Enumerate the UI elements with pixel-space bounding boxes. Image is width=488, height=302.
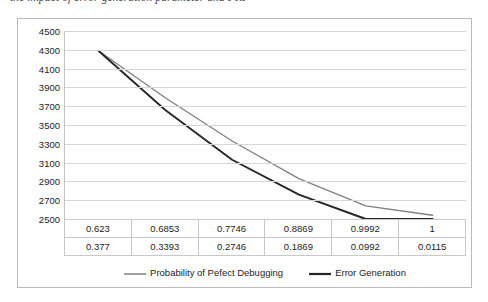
y-axis-tick-label: 3700 [39,101,60,112]
gridline [65,163,466,164]
table-cell: 0.6853 [131,220,198,238]
gridline [65,69,466,70]
table-cell: 0.9992 [332,220,399,238]
figure-caption: the impact of error generation parameter… [10,0,480,5]
table-row: 0.6230.68530.77460.88690.99921 [65,220,466,238]
legend-line-icon [124,263,146,281]
y-axis-tick-label: 4100 [39,63,60,74]
table-cell: 0.0992 [332,238,399,256]
gridline [65,144,466,145]
table-cell: 0.3393 [131,238,198,256]
table-cell: 1 [399,220,466,238]
y-axis-tick-label: 3900 [39,82,60,93]
chart-plot-wrapper: 4500430041003900370035003300310029002700… [18,19,473,289]
gridline [65,200,466,201]
y-axis-tick-label: 3300 [39,138,60,149]
table-cell: 0.7746 [198,220,265,238]
y-axis-tick-label: 3500 [39,120,60,131]
data-table: 0.6230.68530.77460.88690.999210.3770.339… [64,219,466,256]
series-line-2 [98,51,432,219]
legend-label: Probability of Pefect Debugging [150,267,283,278]
y-axis-tick-label: 2700 [39,195,60,206]
legend-line-icon [309,263,331,281]
table-cell: 0.8869 [265,220,332,238]
gridline [65,31,466,32]
gridline [65,125,466,126]
gridline [65,106,466,107]
y-axis-tick-label: 2500 [39,214,60,225]
y-axis-tick-label: 2900 [39,176,60,187]
table-row: 0.3770.33930.27460.18690.09920.0115 [65,238,466,256]
data-table-body: 0.6230.68530.77460.88690.999210.3770.339… [65,220,466,256]
table-cell: 0.2746 [198,238,265,256]
legend-label: Error Generation [335,267,406,278]
y-axis: 4500430041003900370035003300310029002700… [18,19,63,219]
y-axis-tick-label: 3100 [39,157,60,168]
chart-frame: 4500430041003900370035003300310029002700… [17,18,472,288]
gridline [65,181,466,182]
y-axis-tick-label: 4500 [39,26,60,37]
chart-legend: Probability of Pefect DebuggingError Gen… [64,263,466,281]
legend-entry[interactable]: Probability of Pefect Debugging [124,263,283,281]
gridline [65,87,466,88]
legend-entry[interactable]: Error Generation [309,263,406,281]
series-line-1 [98,51,432,216]
table-cell: 0.1869 [265,238,332,256]
table-cell: 0.377 [65,238,132,256]
table-cell: 0.623 [65,220,132,238]
y-axis-tick-label: 4300 [39,44,60,55]
plot-area [64,31,466,219]
gridline [65,50,466,51]
table-cell: 0.0115 [399,238,466,256]
